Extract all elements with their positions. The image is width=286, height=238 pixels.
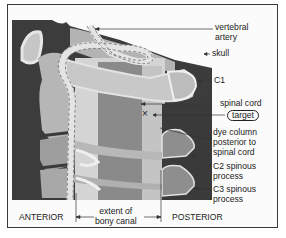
label-c3-spinous: C3 spinous process	[213, 184, 256, 204]
label-spinal-cord: spinal cord	[220, 98, 262, 108]
label-bony-canal: extent of bony canal	[95, 206, 137, 226]
label-dye-column: dye column posterior to spinal cord	[213, 127, 257, 157]
label-skull: skull	[212, 48, 229, 58]
label-c1: C1	[214, 75, 225, 85]
target-marker: ×	[142, 109, 148, 119]
label-anterior: ANTERIOR	[19, 212, 63, 222]
label-posterior: POSTERIOR	[172, 212, 223, 222]
label-target: target	[227, 110, 259, 121]
label-vertebral-artery: vertebral artery	[215, 22, 248, 42]
label-c2-spinous: C2 spinous process	[213, 161, 256, 181]
